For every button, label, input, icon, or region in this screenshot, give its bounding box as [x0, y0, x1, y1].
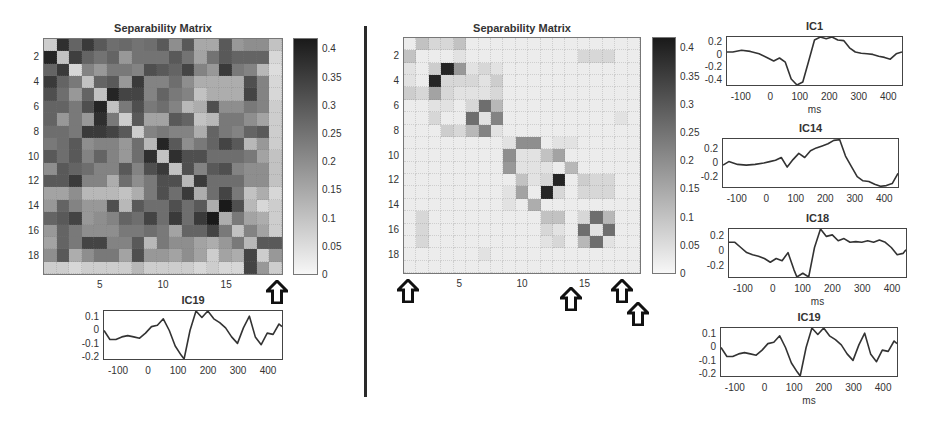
matrix-cell: [219, 126, 232, 138]
matrix-cell: [207, 39, 220, 51]
matrix-cell: [491, 224, 503, 236]
matrix-cell: [479, 261, 491, 273]
matrix-cell: [82, 163, 95, 175]
matrix-cell: [194, 212, 207, 224]
matrix-cell: [516, 186, 528, 198]
matrix-cell: [516, 211, 528, 223]
matrix-y-tick: 10: [13, 151, 39, 162]
matrix-cell: [603, 149, 615, 161]
matrix-cell: [491, 236, 503, 248]
matrix-cell: [57, 113, 70, 125]
matrix-cell: [169, 249, 182, 261]
matrix-cell: [82, 51, 95, 63]
matrix-cell: [578, 174, 590, 186]
matrix-cell: [219, 88, 232, 100]
matrix-cell: [454, 50, 466, 62]
matrix-cell: [182, 138, 195, 150]
matrix-cell: [57, 64, 70, 76]
left-matrix-title: Separability Matrix: [43, 22, 283, 34]
plot-x-tick: 100: [163, 365, 193, 376]
matrix-cell: [615, 199, 627, 211]
matrix-cell: [144, 51, 157, 63]
matrix-cell: [590, 75, 602, 87]
matrix-cell: [541, 261, 553, 273]
matrix-cell: [628, 236, 640, 248]
matrix-cell: [232, 237, 245, 249]
matrix-cell: [615, 125, 627, 137]
matrix-cell: [257, 64, 270, 76]
matrix-cell: [44, 101, 57, 113]
matrix-cell: [528, 236, 540, 248]
plot-y-tick: -0.1: [73, 338, 99, 349]
matrix-cell: [107, 126, 120, 138]
matrix-cell: [503, 186, 515, 198]
matrix-cell: [404, 125, 416, 137]
matrix-cell: [590, 236, 602, 248]
matrix-cell: [244, 113, 257, 125]
matrix-x-tick: 15: [211, 279, 241, 290]
matrix-cell: [69, 64, 82, 76]
matrix-cell: [257, 76, 270, 88]
plot-x-tick: 400: [253, 365, 283, 376]
matrix-cell: [82, 113, 95, 125]
matrix-cell: [441, 162, 453, 174]
matrix-cell: [578, 100, 590, 112]
matrix-cell: [429, 63, 441, 75]
colorbar-tick: 0.1: [680, 212, 694, 223]
matrix-y-tick: 2: [373, 50, 399, 61]
matrix-cell: [541, 50, 553, 62]
matrix-cell: [219, 150, 232, 162]
matrix-cell: [578, 112, 590, 124]
matrix-cell: [69, 113, 82, 125]
matrix-cell: [503, 199, 515, 211]
plot-y-tick: -0.2: [690, 368, 716, 379]
matrix-cell: [182, 39, 195, 51]
matrix-cell: [503, 236, 515, 248]
matrix-cell: [404, 149, 416, 161]
matrix-cell: [466, 50, 478, 62]
matrix-cell: [516, 149, 528, 161]
matrix-cell: [194, 76, 207, 88]
matrix-cell: [479, 100, 491, 112]
matrix-y-tick: 6: [13, 101, 39, 112]
plot-y-tick: 0.2: [696, 36, 722, 47]
matrix-cell: [257, 101, 270, 113]
colorbar-tick: 0.15: [680, 183, 699, 194]
left-colorbar: [293, 38, 318, 275]
plot-x-tick: 100: [779, 382, 809, 393]
matrix-cell: [94, 163, 107, 175]
matrix-cell: [232, 76, 245, 88]
matrix-cell: [615, 112, 627, 124]
matrix-cell: [491, 186, 503, 198]
plot-y-tick: 0: [696, 49, 722, 60]
matrix-cell: [541, 174, 553, 186]
matrix-cell: [479, 38, 491, 50]
matrix-cell: [628, 186, 640, 198]
matrix-cell: [269, 225, 282, 237]
matrix-cell: [44, 88, 57, 100]
matrix-cell: [257, 262, 270, 274]
matrix-cell: [269, 237, 282, 249]
plot-x-tick: 300: [839, 382, 869, 393]
matrix-cell: [269, 187, 282, 199]
matrix-cell: [244, 163, 257, 175]
plot-x-tick: 300: [223, 365, 253, 376]
matrix-cell: [132, 175, 145, 187]
matrix-cell: [94, 138, 107, 150]
matrix-cell: [603, 236, 615, 248]
matrix-cell: [416, 236, 428, 248]
matrix-cell: [416, 149, 428, 161]
matrix-cell: [82, 249, 95, 261]
matrix-cell: [429, 87, 441, 99]
matrix-cell: [404, 199, 416, 211]
left-separability-matrix: [43, 38, 283, 275]
matrix-cell: [553, 137, 565, 149]
matrix-cell: [194, 51, 207, 63]
colorbar-tick: 0.4: [322, 43, 336, 54]
matrix-cell: [628, 112, 640, 124]
matrix-cell: [194, 200, 207, 212]
matrix-cell: [466, 248, 478, 260]
matrix-cell: [169, 64, 182, 76]
matrix-cell: [94, 249, 107, 261]
matrix-cell: [479, 162, 491, 174]
